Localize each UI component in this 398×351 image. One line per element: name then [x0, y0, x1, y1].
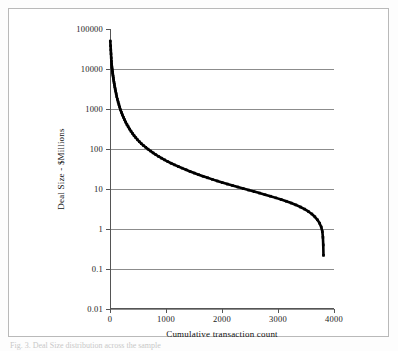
figure-page: Deal Size - $Millions Cumulative transac… — [0, 0, 398, 351]
figure-border: Deal Size - $Millions Cumulative transac… — [8, 8, 389, 337]
x-tick-mark — [334, 309, 335, 313]
y-tick-label: 0.1 — [92, 264, 103, 274]
y-tick-label: 100000 — [76, 24, 103, 34]
data-point — [236, 186, 239, 189]
figure-caption: Fig. 3. Deal Size distribution across th… — [10, 341, 390, 350]
data-point — [193, 172, 196, 175]
data-point — [152, 152, 155, 155]
x-tick-label: 1000 — [157, 314, 175, 324]
data-point — [173, 164, 176, 167]
data-point — [119, 109, 122, 112]
data-point — [142, 144, 145, 147]
data-point — [110, 57, 113, 60]
data-point — [114, 90, 117, 93]
data-point — [120, 111, 123, 114]
data-point — [322, 254, 325, 257]
x-tick-label: 3000 — [269, 314, 287, 324]
data-point — [253, 190, 256, 193]
y-tick-label: 10 — [94, 184, 103, 194]
x-tick-mark — [110, 309, 111, 313]
data-point — [320, 226, 323, 229]
x-axis-title: Cumulative transaction count — [166, 329, 278, 339]
y-tick-label: 1 — [99, 224, 103, 234]
data-point — [321, 230, 324, 233]
data-point — [185, 169, 188, 172]
data-point — [221, 181, 224, 184]
data-point — [275, 197, 278, 200]
data-point — [110, 63, 113, 66]
data-point — [118, 106, 121, 109]
data-point — [206, 177, 209, 180]
x-tick-label: 4000 — [325, 314, 343, 324]
data-point — [295, 204, 298, 207]
plot-canvas: 0.010.1110100100010000100000 01000200030… — [110, 29, 334, 309]
data-point — [116, 98, 119, 101]
data-point — [318, 222, 321, 225]
data-point — [290, 202, 293, 205]
data-series — [110, 29, 334, 309]
plot-area: 0.010.1110100100010000100000 01000200030… — [110, 29, 334, 309]
data-point — [144, 146, 147, 149]
data-point — [163, 159, 166, 162]
y-axis-title: Deal Size - $Millions — [56, 128, 66, 209]
data-point — [322, 236, 325, 239]
data-point — [285, 200, 288, 203]
data-point — [216, 180, 219, 183]
data-point — [147, 148, 150, 151]
data-point — [307, 210, 310, 213]
data-point — [118, 103, 121, 106]
data-point — [122, 116, 125, 119]
data-point — [109, 45, 112, 48]
data-point — [170, 162, 173, 165]
data-point — [126, 123, 129, 126]
data-point — [166, 160, 169, 163]
data-point — [121, 114, 124, 117]
data-point — [264, 193, 267, 196]
data-point — [269, 195, 272, 198]
data-point — [316, 218, 319, 221]
data-point — [160, 157, 163, 160]
data-point — [226, 183, 229, 186]
x-tick-mark — [222, 309, 223, 313]
x-tick-mark — [278, 309, 279, 313]
data-point — [115, 95, 118, 98]
data-point — [123, 118, 126, 121]
data-point — [280, 198, 283, 201]
data-point — [157, 155, 160, 158]
data-point — [303, 208, 306, 211]
data-point — [177, 165, 180, 168]
y-tick-label: 0.01 — [87, 304, 103, 314]
data-point — [155, 153, 158, 156]
data-point — [322, 244, 325, 247]
data-point — [113, 83, 116, 86]
data-point — [258, 192, 261, 195]
data-point — [247, 189, 250, 192]
data-point — [181, 167, 184, 170]
data-point — [110, 52, 113, 55]
data-point — [311, 213, 314, 216]
data-point — [202, 175, 205, 178]
y-tick-label: 10000 — [81, 64, 103, 74]
data-point — [314, 215, 317, 218]
x-tick-mark — [166, 309, 167, 313]
data-point — [231, 184, 234, 187]
data-point — [189, 170, 192, 173]
data-point — [197, 173, 200, 176]
x-tick-label: 2000 — [213, 314, 231, 324]
data-point — [211, 178, 214, 181]
y-tick-label: 100 — [90, 144, 103, 154]
series-line — [110, 41, 323, 255]
data-point — [115, 92, 118, 95]
data-point — [124, 121, 127, 124]
data-point — [242, 187, 245, 190]
y-tick-label: 1000 — [85, 104, 103, 114]
data-point — [114, 87, 117, 90]
data-point — [149, 150, 152, 153]
data-point — [110, 60, 113, 63]
data-point — [109, 49, 112, 52]
data-point — [299, 206, 302, 209]
data-point — [117, 101, 120, 104]
data-point — [127, 125, 130, 128]
data-point — [109, 40, 112, 43]
x-tick-label: 0 — [108, 314, 112, 324]
